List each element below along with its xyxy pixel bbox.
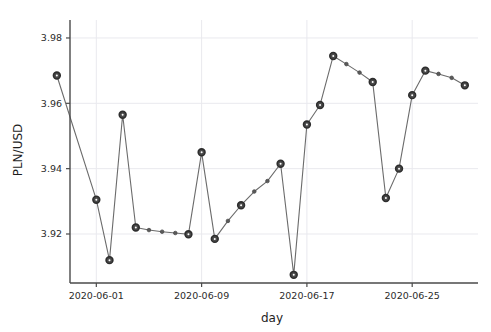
data-point-marker-center (201, 151, 203, 153)
axis-tick-labels: 3.923.943.963.982020-06-012020-06-092020… (41, 32, 440, 301)
data-point-marker-center (424, 70, 426, 72)
data-point-marker-center (108, 259, 110, 261)
data-point-marker-center (398, 168, 400, 170)
data-point-marker-center (214, 238, 216, 240)
data-point-marker-center (56, 75, 58, 77)
data-point-marker-center (293, 274, 295, 276)
data-point-marker-center (240, 204, 242, 206)
data-point-marker-center (319, 104, 321, 106)
data-point-marker (345, 62, 349, 66)
data-series (53, 53, 468, 279)
y-axis-title: PLN/USD (11, 124, 25, 177)
line-chart: 3.923.943.963.982020-06-012020-06-092020… (0, 0, 491, 332)
x-tick-label: 2020-06-17 (279, 290, 334, 301)
data-point-marker-center (411, 94, 413, 96)
y-tick-label: 3.98 (41, 32, 62, 43)
data-point-marker (147, 228, 151, 232)
data-point-marker-center (385, 197, 387, 199)
gridlines (70, 20, 478, 283)
data-point-marker-center (372, 81, 374, 83)
data-point-marker-center (95, 199, 97, 201)
x-tick-label: 2020-06-09 (174, 290, 229, 301)
data-point-marker (358, 71, 362, 75)
x-tick-label: 2020-06-25 (385, 290, 440, 301)
data-point-marker-center (306, 124, 308, 126)
data-point-marker (450, 76, 454, 80)
data-point-marker-center (332, 55, 334, 57)
chart-container: 3.923.943.963.982020-06-012020-06-092020… (0, 0, 491, 332)
y-tick-label: 3.96 (41, 98, 62, 109)
data-point-marker-center (280, 163, 282, 165)
data-point-marker (252, 190, 256, 194)
data-point-marker (160, 230, 164, 234)
data-point-marker (266, 179, 270, 183)
data-point-marker (226, 219, 230, 223)
x-axis-title: day (261, 311, 283, 325)
data-point-marker-center (122, 114, 124, 116)
data-point-marker (173, 231, 177, 235)
y-tick-label: 3.94 (41, 163, 62, 174)
data-point-marker-center (135, 226, 137, 228)
y-tick-label: 3.92 (41, 228, 62, 239)
data-point-marker (437, 72, 441, 76)
x-tick-label: 2020-06-01 (69, 290, 124, 301)
data-point-marker-center (187, 233, 189, 235)
axes (66, 20, 478, 287)
data-point-marker-center (464, 84, 466, 86)
